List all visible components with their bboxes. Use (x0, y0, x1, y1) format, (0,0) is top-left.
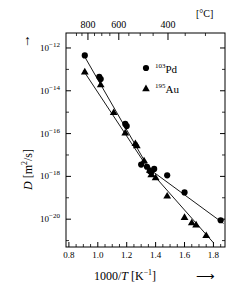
legend-au-isotope: 195 (155, 82, 166, 90)
y-axis-tick-label: 10−12 (40, 41, 60, 53)
x-axis-title-main: 1000/ (94, 269, 121, 283)
y-axis-unit-rest: /s] (21, 149, 35, 161)
fit-line-103pd (83, 54, 149, 168)
legend-marker-circle-pd (143, 65, 149, 71)
legend-marker-triangle-au (142, 85, 150, 92)
data-point-195au (97, 81, 105, 88)
top-axis-unit-label: [°C] (196, 8, 213, 19)
data-point-103pd (164, 172, 170, 178)
y-axis-unit-exponent: 2 (20, 161, 29, 165)
x-axis-arrow-icon: ⟶ (196, 269, 215, 285)
y-axis-arrow-icon: ↑ (24, 33, 31, 49)
figure-arrhenius-diffusion-plot: 0.81.01.21.41.61.880060040010−1210−1410−… (0, 0, 237, 296)
legend-pd-isotope: 103 (155, 62, 166, 70)
x-axis-tick-label: 1.6 (179, 250, 191, 260)
fit-line-195au (149, 170, 213, 243)
x-axis-tick-label: 1.8 (208, 250, 220, 260)
x-axis-tick-label: 1.2 (121, 250, 132, 260)
x-axis-tick-label: 1.0 (92, 250, 104, 260)
data-point-103pd (82, 52, 88, 58)
x-axis-tick-label: 1.4 (150, 250, 162, 260)
data-point-195au (181, 213, 189, 220)
y-axis-unit-open: [m (21, 165, 35, 178)
legend-entry-au: 195Au (155, 82, 179, 95)
y-axis-tick-label: 10−20 (40, 212, 60, 224)
x-axis-unit-close: ] (152, 269, 156, 283)
fit-line-103pd (149, 169, 223, 224)
x-axis-unit-exponent: −1 (144, 268, 152, 277)
data-point-195au (81, 68, 89, 75)
x-axis-unit-open: [K (131, 269, 144, 283)
fit-line-195au (83, 70, 149, 170)
legend-au-element: Au (166, 83, 179, 95)
data-point-103pd (218, 217, 224, 223)
y-axis-tick-label: 10−18 (40, 169, 60, 181)
legend-pd-element: Pd (166, 63, 178, 75)
x-axis-title: 1000/T [K−1] (94, 268, 156, 284)
top-axis-tick-label: 600 (111, 19, 126, 30)
y-axis-tick-label: 10−14 (40, 84, 60, 96)
data-point-103pd (124, 123, 130, 129)
top-axis-tick-label: 800 (80, 19, 95, 30)
top-axis-tick-label: 400 (160, 19, 175, 30)
data-point-103pd (181, 189, 187, 195)
x-axis-tick-label: 0.8 (63, 250, 75, 260)
y-axis-title: D [m2/s] (20, 149, 36, 190)
data-point-195au (202, 232, 210, 239)
y-axis-title-variable: D (21, 181, 35, 190)
y-axis-tick-label: 10−16 (40, 127, 60, 139)
legend-entry-pd: 103Pd (155, 62, 177, 75)
plot-canvas: 0.81.01.21.41.61.880060040010−1210−1410−… (0, 0, 237, 296)
